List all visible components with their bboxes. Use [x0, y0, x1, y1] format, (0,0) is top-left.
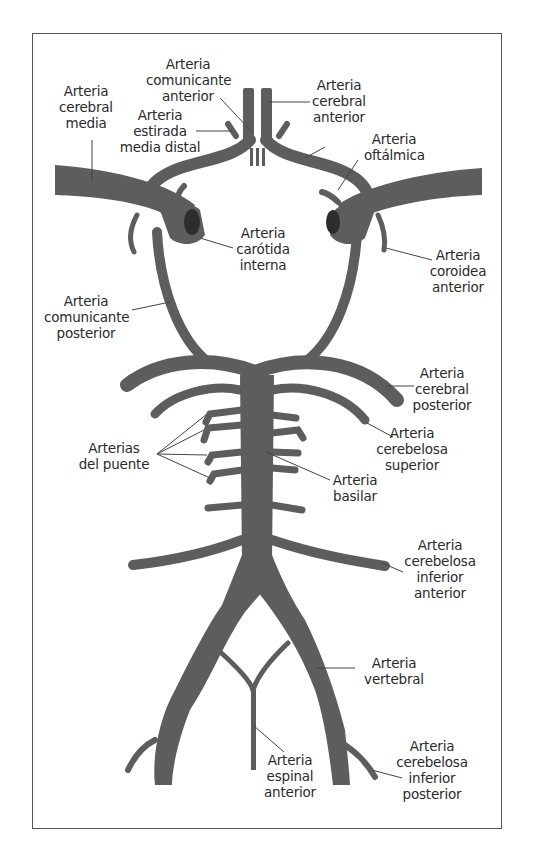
label-coroidea-anterior: Arteria coroidea anterior: [428, 247, 488, 295]
label-cerebelosa-inferior-posterior: Arteria cerebelosa inferior posterior: [394, 738, 470, 802]
label-cerebelosa-superior: Arteria cerebelosa superior: [376, 425, 448, 473]
label-espinal-anterior: Arteria espinal anterior: [262, 752, 318, 800]
middle-cerebral-arteries: [55, 165, 482, 230]
label-basilar: Arteria basilar: [330, 472, 380, 504]
label-estirada-media-distal: Arteria estirada media distal: [118, 107, 202, 155]
label-comunicante-posterior: Arteria comunicante posterior: [44, 293, 128, 341]
label-cerebral-anterior: Arteria cerebral anterior: [312, 77, 366, 125]
label-cerebral-posterior: Arteria cerebral posterior: [412, 365, 472, 413]
label-cerebral-media: Arteria cerebral media: [56, 83, 116, 131]
label-cerebelosa-inferior-anterior: Arteria cerebelosa inferior anterior: [400, 537, 480, 601]
label-oftalmica: Arteria oftálmica: [364, 131, 424, 163]
label-comunicante-anterior: Arteria comunicante anterior: [146, 56, 230, 104]
label-vertebral: Arteria vertebral: [364, 655, 424, 687]
vertebral-arteries: [128, 555, 375, 785]
label-arterias-del-puente: Arterias del puente: [78, 440, 150, 472]
label-carotida-interna: Arteria carótida interna: [234, 225, 292, 273]
